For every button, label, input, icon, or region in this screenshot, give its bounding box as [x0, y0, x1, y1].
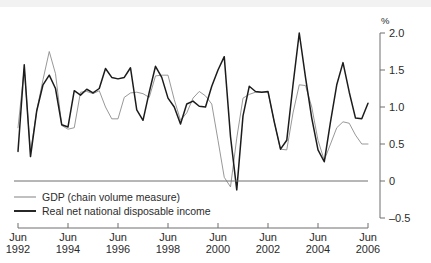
legend-label-rnndi: Real net national disposable income [42, 205, 211, 217]
y-axis-unit-label: % [381, 15, 390, 26]
y-axis-tick-label: 0 [389, 175, 395, 187]
chart-container: % 2.01.51.00.50–0.5 Jun1992Jun1994Jun199… [0, 0, 431, 263]
x-axis-tick-label-year: 2006 [356, 243, 380, 255]
x-axis-tick-label-year: 2000 [206, 243, 230, 255]
chart-legend: GDP (chain volume measure)Real net natio… [14, 191, 211, 217]
x-axis-tick-label-month: Jun [359, 231, 377, 243]
x-axis-tick-label-month: Jun [209, 231, 227, 243]
y-axis-tick-label: –0.5 [389, 212, 410, 224]
y-axis-tick-label: 2.0 [389, 27, 404, 39]
series-line-gdp [18, 52, 368, 187]
x-axis-tick-label-month: Jun [109, 231, 127, 243]
x-axis-tick-label-year: 2002 [256, 243, 280, 255]
x-axis-tick-label-year: 1994 [56, 243, 80, 255]
series-line-real-net-national-disposable-income [18, 33, 368, 190]
y-axis-tick-label: 1.0 [389, 101, 404, 113]
x-axis-tick-label-month: Jun [59, 231, 77, 243]
x-axis-tick-label-month: Jun [259, 231, 277, 243]
x-axis: Jun1992Jun1994Jun1996Jun1998Jun2000Jun20… [6, 223, 380, 255]
x-axis-tick-label-year: 1998 [156, 243, 180, 255]
top-border-band [0, 0, 431, 7]
x-axis-tick-label-year: 1992 [6, 243, 30, 255]
x-axis-tick-label-year: 1996 [106, 243, 130, 255]
x-axis-tick-label-month: Jun [9, 231, 27, 243]
legend-label-gdp: GDP (chain volume measure) [42, 191, 180, 203]
x-axis-tick-label-year: 2004 [306, 243, 330, 255]
y-axis-tick-label: 0.5 [389, 138, 404, 150]
x-axis-tick-label-month: Jun [309, 231, 327, 243]
y-axis-tick-label: 1.5 [389, 64, 404, 76]
x-axis-tick-label-month: Jun [159, 231, 177, 243]
y-axis: 2.01.51.00.50–0.5 [380, 27, 410, 224]
line-chart: % 2.01.51.00.50–0.5 Jun1992Jun1994Jun199… [0, 0, 431, 263]
